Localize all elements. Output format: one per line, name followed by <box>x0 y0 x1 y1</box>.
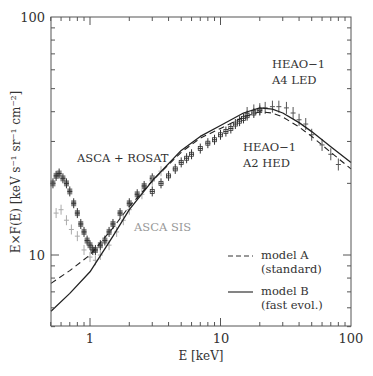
annotation-asca-sis: ASCA SIS <box>133 220 191 234</box>
legend: model A (standard) model B (fast evol.) <box>228 248 323 312</box>
annotation-heao-a4-line2: A4 LED <box>271 73 317 87</box>
legend-model-a-sublabel: (standard) <box>261 262 322 276</box>
x-tick-label-10: 10 <box>213 331 230 346</box>
y-axis-title: E×F(E) [keV s⁻¹ sr⁻¹ cm⁻²] <box>9 91 23 254</box>
y-tick-label-10: 10 <box>28 248 45 263</box>
figure-caption-cropped <box>0 368 373 376</box>
x-tick-label-100: 100 <box>339 331 364 346</box>
annotation-heao-a2-line1: HEAO−1 <box>243 140 296 154</box>
x-tick-label-1: 1 <box>86 331 94 346</box>
model-curves <box>51 108 351 311</box>
annotation-heao-a4-line1: HEAO−1 <box>272 57 325 71</box>
legend-model-b-label: model B <box>261 284 309 298</box>
y-tick-label-100: 100 <box>20 10 45 25</box>
x-axis-title: E [keV] <box>179 349 224 363</box>
annotation-heao-a2-line2: A2 HED <box>242 156 290 170</box>
annotation-asca-rosat: ASCA + ROSAT <box>76 151 169 165</box>
legend-model-b-sublabel: (fast evol.) <box>261 298 323 312</box>
chart: 1 10 100 10 100 E [keV] E×F(E) [keV s⁻¹ … <box>0 0 373 376</box>
legend-model-a-label: model A <box>261 248 309 262</box>
